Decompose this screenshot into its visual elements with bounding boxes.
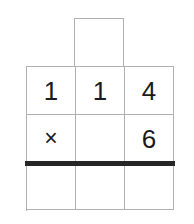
multiplier-cell-tens[interactable] [76,115,125,163]
multiplier-row: × 6 [27,115,174,163]
multiplication-worksheet: 1 1 4 × 6 [0,0,194,224]
multiplier-digit-ones[interactable]: 6 [125,115,174,163]
answer-row [27,163,174,210]
answer-cell-tens[interactable] [76,163,125,210]
multiplication-operator-icon: × [27,115,76,163]
calculation-grid: 1 1 4 × 6 [26,66,174,211]
multiplicand-row: 1 1 4 [27,67,174,115]
answer-rule-divider [25,161,175,166]
multiplicand-digit-ones[interactable]: 4 [125,67,174,115]
carry-row [74,18,124,67]
answer-cell-ones[interactable] [125,163,174,210]
multiplicand-digit-tens[interactable]: 1 [76,67,125,115]
multiplicand-digit-hundreds[interactable]: 1 [27,67,76,115]
answer-cell-hundreds[interactable] [27,163,76,210]
carry-cell-tens[interactable] [74,18,124,67]
